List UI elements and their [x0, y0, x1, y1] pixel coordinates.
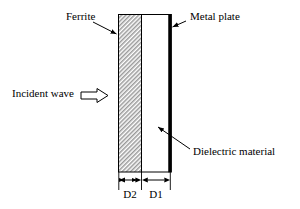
block-arrow-right-icon	[81, 89, 108, 103]
dimension-label-d1: D1	[149, 188, 162, 200]
metal-plate-leader	[173, 21, 187, 27]
ferrite-block	[119, 15, 142, 173]
dimension-head-d2-left	[119, 177, 125, 182]
dimension-head-d1-right	[164, 177, 170, 182]
dielectric-block	[142, 15, 170, 173]
diagram-canvas: Ferrite Metal plate Dielectric material …	[0, 0, 300, 209]
metal-plate-label: Metal plate	[190, 10, 240, 22]
dimension-label-d2: D2	[123, 188, 136, 200]
incident-wave-label: Incident wave	[12, 87, 74, 99]
metal-plate-leader-arrow-icon	[173, 21, 187, 27]
dimension-head-d1-left	[142, 177, 148, 182]
dielectric-material-label: Dielectric material	[193, 145, 275, 157]
dimension-d2	[119, 177, 141, 182]
ferrite-leader-arrow-icon	[93, 22, 117, 34]
incident-wave-arrow	[81, 89, 108, 103]
layer-ferrite	[119, 15, 142, 173]
ferrite-leader	[93, 22, 117, 34]
ferrite-label: Ferrite	[66, 10, 95, 22]
layer-dielectric-material	[142, 15, 170, 173]
dimension-head-d2-right	[135, 177, 141, 182]
dimension-d1	[142, 177, 170, 182]
figure-cross-section-diagram: Ferrite Metal plate Dielectric material …	[0, 0, 300, 209]
metal-plate-bar	[169, 14, 172, 173]
layer-metal-plate	[169, 14, 172, 173]
